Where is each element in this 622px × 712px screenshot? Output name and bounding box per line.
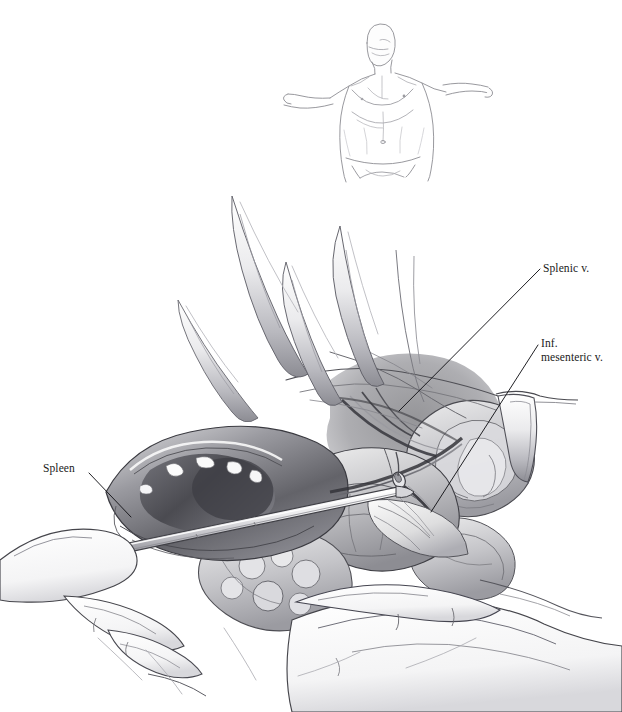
label-inf-mesenteric-vein-line2: mesenteric v. [541, 351, 603, 365]
anatomical-illustration [0, 0, 622, 712]
label-splenic-vein: Splenic v. [543, 262, 589, 276]
illustration-plate: Spleen Splenic v. Inf.mesenteric v. [0, 0, 622, 712]
label-spleen: Spleen [43, 462, 75, 476]
label-inf-mesenteric-vein: Inf.mesenteric v. [541, 337, 603, 364]
label-inf-mesenteric-vein-line1: Inf. [541, 337, 558, 349]
